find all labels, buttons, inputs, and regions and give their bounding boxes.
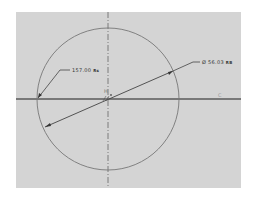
angle-leader-line <box>38 70 70 98</box>
arrowhead-icon <box>168 71 173 75</box>
axis-label: C <box>218 92 222 98</box>
angle-dimension[interactable]: 157.00 Rs <box>72 67 99 73</box>
point-icon <box>110 94 112 96</box>
horizontal-constraint-marker: H <box>104 88 108 94</box>
arrowhead-icon <box>45 123 51 127</box>
diameter-dimension[interactable]: Ø 56.03 RB <box>202 59 233 65</box>
angle-value: 157.00 <box>72 67 91 73</box>
diameter-unit-tag: RB <box>226 60 233 65</box>
angle-unit-tag: Rs <box>93 68 99 73</box>
diameter-leader-line <box>173 62 200 71</box>
diameter-value: Ø 56.03 <box>202 59 224 65</box>
sketch-geometry <box>0 0 253 199</box>
